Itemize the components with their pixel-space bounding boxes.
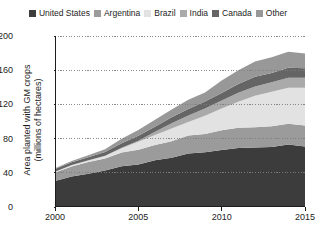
legend-item-india[interactable]: India (180, 9, 208, 18)
legend-item-brazil[interactable]: Brazil (144, 9, 175, 18)
legend-label: Brazil (154, 9, 175, 18)
legend-swatch-icon (212, 10, 219, 17)
x-tick-label-2000: 2000 (45, 213, 65, 222)
y-tick-label-0: 0 (0, 203, 13, 212)
x-tick-label-2005: 2005 (128, 213, 148, 222)
plot-area (55, 36, 305, 207)
legend-item-other[interactable]: Other (256, 9, 287, 18)
legend-item-canada[interactable]: Canada (212, 9, 252, 18)
legend-swatch-icon (94, 10, 101, 17)
y-axis-title-line2: (millions of hectares) (33, 35, 44, 205)
legend-swatch-icon (29, 10, 36, 17)
stacked-area-svg (54, 35, 306, 212)
legend-label: United States (39, 9, 90, 18)
chart-figure: United StatesArgentinaBrazilIndiaCanadaO… (0, 0, 320, 239)
x-tick-label-2015: 2015 (295, 213, 315, 222)
y-tick-label-200: 200 (0, 32, 13, 41)
legend-swatch-icon (256, 10, 263, 17)
x-tick-label-2010: 2010 (212, 213, 232, 222)
legend-label: Other (266, 9, 287, 18)
chart-legend: United StatesArgentinaBrazilIndiaCanadaO… (0, 0, 320, 26)
y-tick-label-40: 40 (0, 168, 13, 177)
legend-swatch-icon (144, 10, 151, 17)
y-tick-label-80: 80 (0, 134, 13, 143)
legend-swatch-icon (180, 10, 187, 17)
y-axis-title-line1: Area planted with GM crops (22, 35, 33, 205)
y-axis-title: Area planted with GM crops (millions of … (22, 35, 44, 205)
legend-item-united-states[interactable]: United States (29, 9, 90, 18)
y-tick-label-120: 120 (0, 100, 13, 109)
legend-item-argentina[interactable]: Argentina (94, 9, 140, 18)
legend-label: India (190, 9, 208, 18)
legend-label: Canada (222, 9, 252, 18)
y-tick-label-160: 160 (0, 66, 13, 75)
legend-label: Argentina (104, 9, 140, 18)
